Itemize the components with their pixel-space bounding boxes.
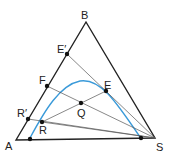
label-Q: Q xyxy=(77,107,86,119)
label-E: E xyxy=(104,79,111,91)
point-Q xyxy=(79,101,83,105)
label-R: R xyxy=(39,124,47,136)
label-B: B xyxy=(81,9,88,21)
line-Eprime-S xyxy=(67,54,155,138)
ternary-diagram: B A S E′ F E Q R′ R xyxy=(0,0,173,155)
point-curve-right xyxy=(139,136,143,140)
label-R-prime: R′ xyxy=(17,107,27,119)
label-A: A xyxy=(5,140,13,152)
point-curve-left xyxy=(28,137,32,141)
line-R-E xyxy=(42,91,106,122)
label-S: S xyxy=(156,141,163,153)
label-F: F xyxy=(39,74,46,86)
label-E-prime: E′ xyxy=(57,43,66,55)
